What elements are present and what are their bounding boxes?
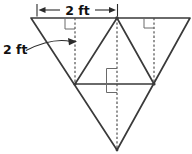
- vertex-dot-left-midpoint: [73, 82, 76, 85]
- height-pointer-arrowhead-icon: [68, 38, 77, 45]
- vertex-dot-top-midpoint: [115, 16, 118, 19]
- right-angle-marker-center: [107, 69, 118, 93]
- right-angle-marker-right: [144, 19, 154, 28]
- vertex-dot-right-midpoint: [152, 82, 155, 85]
- vertex-dot-bottom-apex: [116, 149, 119, 152]
- right-angle-marker-left: [65, 19, 75, 29]
- top-width-label: 2 ft: [65, 3, 89, 18]
- arrowhead-right-icon: [109, 7, 116, 13]
- figure-canvas: 2 ft 2 ft: [0, 0, 192, 154]
- arrowhead-left-icon: [39, 7, 46, 13]
- height-label: 2 ft: [3, 42, 27, 57]
- pyramid-net-diagram: 2 ft 2 ft: [0, 0, 192, 154]
- inner-triangle: [75, 18, 154, 84]
